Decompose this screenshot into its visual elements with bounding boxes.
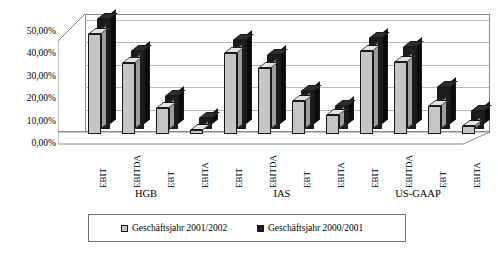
bar-side [280, 45, 286, 124]
group-label-hgb: HGB [88, 188, 204, 199]
y-axis-tick-10: 10,00% [27, 117, 56, 127]
bar-face [462, 126, 475, 134]
category-label-ebita-0: EBITA [201, 162, 210, 188]
y-axis-tick-0: 0,00% [31, 139, 56, 149]
group-label-us-gaap: US-GAAP [360, 188, 476, 199]
bar-face [258, 68, 271, 134]
chart-container: 0,00%10,00%20,00%30,00%40,00%50,00% EBIT… [0, 0, 498, 254]
bar-side [101, 25, 107, 129]
bar-side [407, 52, 413, 129]
category-label-ebit-0: EBIT [99, 168, 108, 188]
bar-us-gaap-ebt-s1 [428, 106, 441, 134]
bar-hgb-ebita-s1 [190, 130, 203, 134]
bar-us-gaap-ebita-s1 [462, 126, 475, 134]
legend-swatch-icon-2 [257, 225, 264, 232]
bar-side [416, 38, 422, 124]
category-label-ebt-2: EBT [439, 171, 448, 188]
bar-side [110, 9, 116, 124]
bar-side [144, 41, 150, 124]
bar-face [122, 63, 135, 134]
bar-side [271, 59, 277, 129]
bar-face [292, 101, 305, 134]
y-axis-tick-30: 30,00% [27, 72, 56, 82]
category-label-ebita-2: EBITA [473, 162, 482, 188]
bar-face [156, 108, 169, 135]
bar-face [360, 51, 373, 134]
category-label-ebitda-2: EBITDA [405, 155, 414, 188]
bar-hgb-ebt-s1 [156, 108, 169, 135]
bar-face [88, 34, 101, 134]
bar-ias-ebit-s1 [224, 53, 237, 134]
bar-face [428, 106, 441, 134]
category-label-ebitda-0: EBITDA [133, 155, 142, 188]
legend-swatch-icon-1 [121, 225, 128, 232]
category-label-ebita-1: EBITA [337, 162, 346, 188]
category-label-ebit-1: EBIT [235, 168, 244, 188]
bar-side [237, 44, 243, 129]
bar-face [394, 62, 407, 134]
bar-side [246, 30, 252, 124]
group-label-ias: IAS [224, 188, 340, 199]
bar-us-gaap-ebitda-s1 [394, 62, 407, 134]
bar-face [326, 115, 339, 134]
legend-item-2[interactable]: Geschäftsjahr 2000/2001 [257, 223, 363, 233]
bar-hgb-ebitda-s1 [122, 63, 135, 134]
category-label-ebt-0: EBT [167, 171, 176, 188]
bar-side [382, 28, 388, 124]
y-axis-tick-40: 40,00% [27, 49, 56, 59]
bar-face [224, 53, 237, 134]
category-label-ebt-1: EBT [303, 171, 312, 188]
legend-label-2: Geschäftsjahr 2000/2001 [268, 223, 363, 233]
bar-ias-ebt-s1 [292, 101, 305, 134]
group-axis-labels: HGBIASUS-GAAP [58, 188, 490, 204]
bar-face [190, 130, 203, 134]
bar-series-layer [58, 14, 490, 146]
bar-ias-ebita-s1 [326, 115, 339, 134]
category-label-ebitda-1: EBITDA [269, 155, 278, 188]
bar-side [373, 42, 379, 129]
category-label-ebit-2: EBIT [371, 168, 380, 188]
y-axis-labels: 0,00%10,00%20,00%30,00%40,00%50,00% [0, 0, 58, 160]
bar-ias-ebitda-s1 [258, 68, 271, 134]
bar-hgb-ebit-s1 [88, 34, 101, 134]
y-axis-tick-50: 50,00% [27, 27, 56, 37]
bar-us-gaap-ebit-s1 [360, 51, 373, 134]
bar-side [135, 53, 141, 129]
legend-label-1: Geschäftsjahr 2001/2002 [132, 223, 227, 233]
legend-item-1[interactable]: Geschäftsjahr 2001/2002 [121, 223, 227, 233]
chart-legend: Geschäftsjahr 2001/2002Geschäftsjahr 200… [88, 214, 406, 242]
y-axis-tick-20: 20,00% [27, 94, 56, 104]
